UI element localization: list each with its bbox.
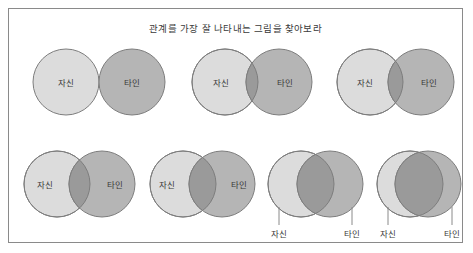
venn-2-label-other: 타인 (277, 78, 293, 88)
venn-6-label-self: 자신 (271, 229, 287, 239)
venn-diagram-7: 자신 타인 (374, 149, 473, 247)
figure-title: 관계를 가장 잘 나타내는 그림을 찾아보라 (9, 21, 462, 35)
venn-4-label-self: 자신 (37, 180, 53, 190)
venn-diagram-4: 자신 타인 (23, 149, 147, 219)
venn-5-label-self: 자신 (159, 180, 175, 190)
venn-1-label-other: 타인 (124, 78, 140, 88)
venn-3-label-self: 자신 (357, 78, 373, 88)
venn-diagram-2: 자신 타인 (191, 47, 323, 117)
venn-1-label-self: 자신 (58, 78, 74, 88)
venn-7-label-other: 타인 (444, 229, 460, 239)
venn-diagram-5: 자신 타인 (149, 149, 269, 219)
venn-7-label-self: 자신 (380, 229, 396, 239)
venn-diagram-1: 자신 타인 (31, 47, 171, 117)
figure-frame: 관계를 가장 잘 나타내는 그림을 찾아보라 자신 타인 (8, 8, 463, 243)
venn-diagram-6: 자신 타인 (267, 149, 379, 247)
venn-4-label-other: 타인 (107, 180, 123, 190)
venn-5-label-other: 타인 (231, 180, 247, 190)
venn-diagram-3: 자신 타인 (336, 47, 466, 117)
venn-6-label-other: 타인 (344, 229, 360, 239)
venn-3-label-other: 타인 (421, 78, 437, 88)
venn-2-label-self: 자신 (213, 78, 229, 88)
